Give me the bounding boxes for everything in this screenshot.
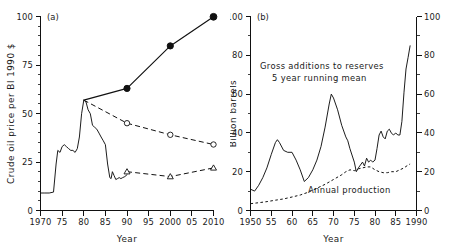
panel-b-ytick-left-0: 0: [237, 206, 243, 216]
panel-a: 0 25 50 75 100 1970 75 80 85 90 95 2000 …: [0, 0, 230, 247]
panel-b-xtick-75: 75: [349, 217, 360, 227]
panel-a-xlabel: Year: [116, 234, 138, 244]
panel-b: 0 20 40 60 80 100 0 20 40 60 80 100 1950…: [230, 0, 461, 247]
panel-a-ytick-50: 50: [22, 109, 33, 119]
panel-b-annotation-reserves-line1: Gross additions to reserves: [260, 61, 384, 71]
panel-b-annotation-reserves-line2: 5 year running mean: [272, 73, 367, 83]
panel-b-ytick-right-0: 0: [424, 206, 430, 216]
panel-a-xtick-05: 05: [186, 217, 197, 227]
panel-a-high-projection-line: [84, 17, 214, 100]
panel-a-xtick-75: 75: [57, 217, 68, 227]
panel-a-tag: (a): [47, 12, 59, 22]
panel-a-middle-projection-line: [84, 100, 214, 144]
panel-a-plot: 0 25 50 75 100 1970 75 80 85 90 95 2000 …: [0, 0, 230, 247]
panel-b-ytick-right-60: 60: [424, 89, 435, 99]
panel-a-middle-projection-markers: [124, 121, 216, 148]
panel-a-xtick-85: 85: [100, 217, 111, 227]
panel-b-ytick-right-100: 100: [424, 12, 441, 22]
panel-a-xtick-95: 95: [143, 217, 154, 227]
panel-b-x-ticks: [251, 211, 417, 216]
panel-a-ylabel: Crude oil price per Bl 1990 $: [6, 43, 16, 184]
panel-b-ytick-left-80: 80: [232, 50, 243, 60]
panel-b-xtick-65: 65: [307, 217, 318, 227]
panel-a-xtick-2010: 2010: [202, 217, 224, 227]
panel-a-xtick-80: 80: [78, 217, 89, 227]
panel-b-xtick-80: 80: [369, 217, 380, 227]
panel-a-ytick-75: 75: [22, 60, 33, 70]
panel-b-xtick-85: 85: [390, 217, 401, 227]
panel-b-xtick-1950: 1950: [239, 217, 261, 227]
panel-a-ytick-25: 25: [22, 157, 33, 167]
panel-b-annual-production-line: [251, 164, 411, 204]
panel-b-xtick-55: 55: [266, 217, 277, 227]
panel-a-high-projection-markers: [124, 13, 217, 91]
panel-b-ytick-left-100: 100: [230, 12, 243, 22]
panel-a-historical-price-line: [41, 100, 128, 193]
panel-a-x-ticks: [41, 211, 214, 216]
panel-a-xtick-2000: 2000: [159, 217, 181, 227]
panel-b-xtick-70: 70: [328, 217, 339, 227]
panel-b-xtick-60: 60: [286, 217, 297, 227]
panel-b-xtick-1990: 1990: [405, 217, 427, 227]
panel-b-xlabel: Year: [322, 234, 344, 244]
panel-b-ytick-right-80: 80: [424, 50, 435, 60]
panel-a-ytick-100: 100: [16, 12, 33, 22]
panel-b-tag: (b): [257, 12, 269, 22]
panel-a-xtick-1970: 1970: [29, 217, 51, 227]
figure-container: 0 25 50 75 100 1970 75 80 85 90 95 2000 …: [0, 0, 461, 247]
panel-a-low-projection-markers: [124, 165, 217, 179]
panel-b-ytick-right-20: 20: [424, 167, 435, 177]
panel-b-ytick-right-40: 40: [424, 128, 435, 138]
panel-b-ytick-left-20: 20: [232, 167, 243, 177]
panel-b-plot: 0 20 40 60 80 100 0 20 40 60 80 100 1950…: [230, 0, 461, 247]
panel-a-ytick-0: 0: [27, 206, 33, 216]
panel-a-xtick-90: 90: [121, 217, 132, 227]
panel-b-ylabel: Billion barrels: [230, 80, 238, 147]
